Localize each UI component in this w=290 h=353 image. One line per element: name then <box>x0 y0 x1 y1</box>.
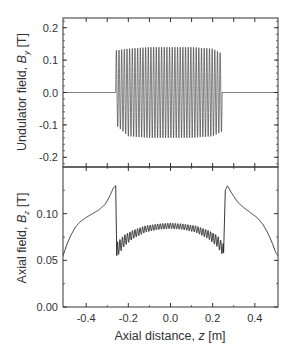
top-y-axis-label: Undulator field, By [T] <box>15 33 31 151</box>
x-axis-label: Axial distance, z [m] <box>114 329 225 343</box>
top-panel-y-tick-labels: -0.2-0.10.00.10.2 <box>39 22 58 164</box>
y-tick-label: 0.00 <box>37 301 58 313</box>
axial-field-curve <box>63 186 278 256</box>
y-tick-label: -0.1 <box>39 119 58 131</box>
chart-figure: -0.2-0.10.00.10.2 0.000.050.10-0.4-0.20.… <box>0 0 290 353</box>
bottom-y-axis-label: Axial field, Bz [T] <box>15 193 31 284</box>
x-tick-label: 0.0 <box>163 312 178 324</box>
y-tick-label: 0.05 <box>37 254 58 266</box>
x-tick-label: -0.2 <box>119 312 138 324</box>
undulator-field-curve <box>63 47 278 138</box>
y-tick-label: 0.1 <box>43 54 58 66</box>
x-tick-label: 0.2 <box>205 312 220 324</box>
y-tick-label: 0.2 <box>43 22 58 34</box>
bottom-panel-frame <box>63 167 278 307</box>
bottom-panel-ticks <box>63 167 278 307</box>
undulator-field-panel: -0.2-0.10.00.10.2 <box>39 18 278 167</box>
x-tick-label: -0.4 <box>77 312 96 324</box>
y-tick-label: 0.0 <box>43 87 58 99</box>
y-tick-label: 0.10 <box>37 208 58 220</box>
x-tick-label: 0.4 <box>247 312 262 324</box>
y-tick-label: -0.2 <box>39 151 58 163</box>
axial-field-panel: 0.000.050.10-0.4-0.20.00.20.4 <box>37 167 278 324</box>
